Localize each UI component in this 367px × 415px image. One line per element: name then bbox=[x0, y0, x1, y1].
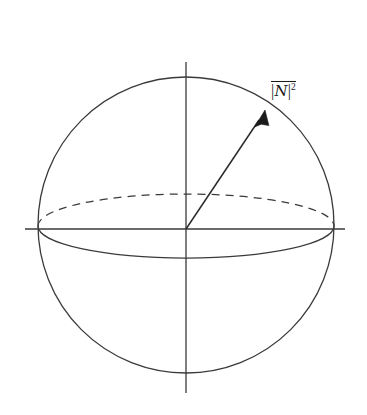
radius-vector-arrowhead bbox=[255, 110, 269, 127]
exponent-glyph: 2 bbox=[291, 82, 296, 92]
script-n-glyph: N bbox=[274, 82, 288, 100]
radius-vector-shaft bbox=[186, 120, 259, 229]
overline-group: |N|2 bbox=[271, 81, 296, 99]
vector-magnitude-label: |N|2 bbox=[271, 81, 296, 99]
sphere-diagram-svg bbox=[0, 0, 367, 415]
figure-root: |N|2 bbox=[0, 0, 367, 415]
